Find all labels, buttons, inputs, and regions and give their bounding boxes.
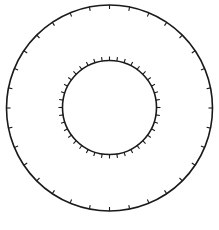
tick-mark (117, 154, 118, 158)
tick-mark (89, 7, 90, 11)
tick-mark (207, 88, 211, 89)
tick-mark (129, 7, 130, 11)
background (0, 0, 219, 230)
tick-mark (129, 205, 130, 209)
tick-mark (102, 154, 103, 158)
tick-mark (117, 57, 118, 61)
tick-mark (8, 88, 12, 89)
tick-mark (156, 115, 160, 116)
tick-mark (59, 100, 63, 101)
tick-mark (89, 205, 90, 209)
tick-mark (102, 57, 103, 61)
tick-mark (8, 127, 12, 128)
tick-mark (156, 100, 160, 101)
tick-mark (59, 115, 63, 116)
concentric-rings-diagram (0, 0, 219, 230)
tick-mark (207, 127, 211, 128)
